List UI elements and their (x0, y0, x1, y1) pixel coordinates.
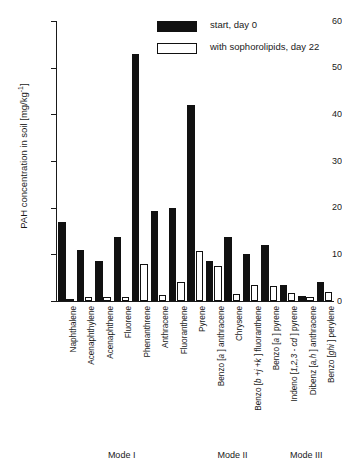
x-axis-label-acenaphthene: Acenaphthene (107, 306, 116, 359)
x-axis-label-fluorene: Fluorene (125, 306, 134, 338)
bar-sophorolipids-day-22 (214, 266, 221, 301)
x-axis-label-pyrene: Pyrene (199, 306, 208, 332)
mode-label-mode-iii: Mode III (279, 450, 334, 460)
bar-start-day-0 (224, 237, 231, 301)
x-axis-label-dibenz-a-h-anthracene: Dibenz [a,h ] anthracene (310, 306, 319, 395)
bar-sophorolipids-day-22 (177, 282, 184, 301)
bar-start-day-0 (206, 261, 213, 301)
pah-concentration-bar-chart: PAH concentration in soil [mg/kg-1] 0102… (0, 0, 342, 466)
bar-start-day-0 (132, 54, 139, 301)
bar-sophorolipids-day-22 (140, 264, 147, 301)
bar-sophorolipids-day-22 (196, 251, 203, 301)
x-axis-label-anthracene: Anthracene (162, 306, 171, 348)
x-axis-label-benzo-a-anthracene: Benzo [a ] anthracene (218, 306, 227, 386)
bar-group (205, 21, 223, 301)
bar-group (316, 21, 334, 301)
mode-label-mode-i: Mode I (57, 450, 186, 460)
y-axis-title: PAH concentration in soil [mg/kg-1] (17, 41, 29, 271)
bar-sophorolipids-day-22 (325, 292, 332, 301)
plot-area (57, 21, 334, 301)
bar-start-day-0 (58, 222, 65, 301)
bar-group (260, 21, 278, 301)
bar-start-day-0 (187, 105, 194, 301)
bar-group (242, 21, 260, 301)
x-axis-baseline (56, 301, 334, 302)
bar-group (112, 21, 130, 301)
bar-group (149, 21, 167, 301)
bar-start-day-0 (114, 237, 121, 301)
bar-start-day-0 (280, 285, 287, 301)
bar-start-day-0 (151, 211, 158, 301)
y-axis-title-text: PAH concentration in soil [mg/kg (18, 92, 29, 229)
bar-group (57, 21, 75, 301)
x-axis-label-benzo-b-j-k-fluoranthene: Benzo [b +j +k ] fluoranthene (255, 306, 264, 411)
x-axis-label-phenanthrene: Phenanthrene (144, 306, 153, 357)
y-axis-title-bracket: ] (18, 83, 29, 86)
bar-sophorolipids-day-22 (288, 293, 295, 301)
bar-group (297, 21, 315, 301)
bar-group (94, 21, 112, 301)
x-axis-label-chrysene: Chrysene (236, 306, 245, 341)
bar-sophorolipids-day-22 (270, 286, 277, 301)
x-axis-label-indeno-1-2-3-cd-pyrene: Indeno [1,2,3 - cd ] pyrene (291, 306, 300, 402)
x-axis-label-naphthalene: Naphthalene (70, 306, 79, 352)
bar-start-day-0 (243, 254, 250, 301)
bar-start-day-0 (169, 208, 176, 301)
y-axis-title-exponent: -1 (17, 86, 24, 92)
x-axis-label-benzo-ghi-perylene: Benzo [ghi ] perylene (328, 306, 337, 383)
bar-group (168, 21, 186, 301)
bar-start-day-0 (77, 250, 84, 301)
x-axis-label-benzo-a-pyrene: Benzo [a ] pyrene (273, 306, 282, 370)
bar-start-day-0 (95, 261, 102, 301)
bar-group (131, 21, 149, 301)
bar-group (223, 21, 241, 301)
bar-start-day-0 (261, 245, 268, 301)
bar-start-day-0 (317, 282, 324, 301)
x-axis-label-acenaphthylene: Acenaphthylene (88, 306, 97, 365)
bar-group (75, 21, 93, 301)
x-axis-label-fluoranthene: Fluoranthene (181, 306, 190, 354)
bar-group (279, 21, 297, 301)
bar-group (186, 21, 204, 301)
mode-label-mode-ii: Mode II (186, 450, 278, 460)
bar-sophorolipids-day-22 (251, 285, 258, 301)
bar-sophorolipids-day-22 (233, 294, 240, 301)
